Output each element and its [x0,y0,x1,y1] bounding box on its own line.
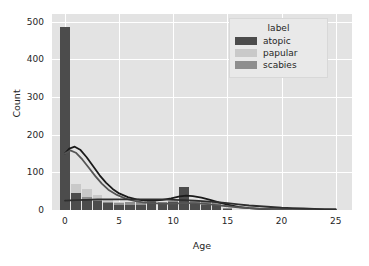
y-axis-label: Count [11,74,22,134]
x-tick-0: 0 [45,216,85,226]
x-tick-15: 15 [207,216,247,226]
legend-item-scabies[interactable]: scabies [235,60,322,70]
legend-swatch-atopic [235,37,257,45]
y-tick-500: 500 [0,17,44,27]
y-tick-200: 200 [0,130,44,140]
legend-item-atopic[interactable]: atopic [235,36,322,46]
legend-swatch-papular [235,49,257,57]
histogram-figure: Count Age 0100200300400500 0510152025 la… [0,0,369,266]
y-tick-0: 0 [0,205,44,215]
legend: label atopicpapularscabies [229,18,328,78]
y-tick-400: 400 [0,54,44,64]
x-tick-25: 25 [316,216,356,226]
x-tick-20: 20 [262,216,302,226]
legend-label-scabies: scabies [263,60,297,70]
legend-swatch-scabies [235,61,257,69]
y-tick-300: 300 [0,92,44,102]
x-tick-10: 10 [153,216,193,226]
legend-title: label [235,23,322,33]
legend-item-papular[interactable]: papular [235,48,322,58]
legend-label-atopic: atopic [263,36,291,46]
x-axis-label: Age [52,240,352,251]
legend-label-papular: papular [263,48,297,58]
y-tick-100: 100 [0,167,44,177]
x-tick-5: 5 [99,216,139,226]
legend-items: atopicpapularscabies [235,36,322,70]
